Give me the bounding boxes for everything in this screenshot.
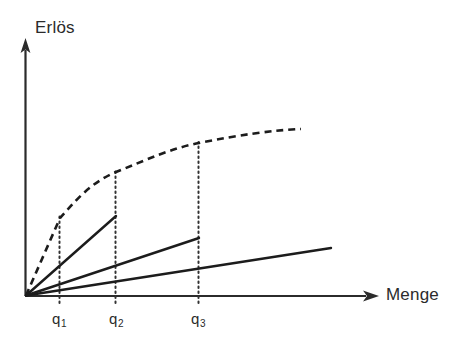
x-tick-label-q1: q1 xyxy=(52,310,66,327)
x-tick-label-q3-subscript: 3 xyxy=(200,318,206,329)
x-axis-label: Menge xyxy=(386,285,439,305)
x-tick-label-q2: q2 xyxy=(109,310,123,327)
x-tick-label-q2-base: q xyxy=(109,310,117,327)
y-axis-label: Erlös xyxy=(35,18,75,38)
x-tick-label-q3: q3 xyxy=(191,310,205,327)
x-tick-label-q2-subscript: 2 xyxy=(118,318,124,329)
x-tick-label-q3-base: q xyxy=(191,310,199,327)
x-tick-label-q1-subscript: 1 xyxy=(61,318,67,329)
chart-figure: Erlös Menge q1 q2 q3 xyxy=(0,0,460,349)
revenue-line-2 xyxy=(26,238,199,296)
x-tick-label-q1-base: q xyxy=(52,310,60,327)
envelope-curve xyxy=(26,129,301,296)
